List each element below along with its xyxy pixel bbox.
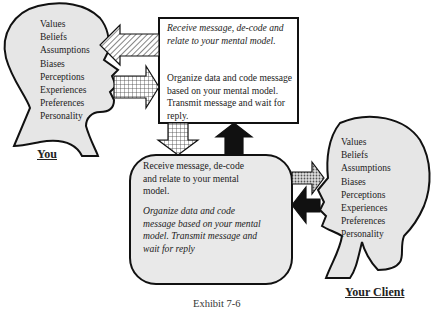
bottom-box-organize-text: Organize data and code message based on … [143,205,267,255]
client-traits-list: Values Beliefs Assumptions Biases Percep… [341,136,391,242]
client-trait: Perceptions [341,189,391,202]
arrow-top-box-to-you [100,25,159,65]
you-label: You [37,148,57,162]
client-trait: Assumptions [341,162,391,175]
arrow-bottom-box-to-top-box [216,123,252,155]
arrow-you-to-top-box [114,66,159,108]
you-trait: Biases [40,58,90,71]
arrow-top-box-to-bottom-box [158,123,198,155]
arrow-client-to-bottom-box [292,187,320,223]
client-trait: Personality [341,228,391,241]
top-box-organize-text: Organize data and code message based on … [167,72,295,122]
you-trait: Preferences [40,97,90,110]
you-trait: Values [40,18,90,31]
client-trait: Preferences [341,215,391,228]
you-trait: Assumptions [40,44,90,57]
you-trait: Experiences [40,84,90,97]
you-traits-list: Values Beliefs Assumptions Biases Percep… [40,18,90,124]
top-box-receive-text: Receive message, de-code and relate to y… [167,22,293,47]
you-trait: Personality [40,110,90,123]
client-trait: Values [341,136,391,149]
bottom-box-receive-text: Receive message, de-code and relate to y… [143,160,253,198]
you-trait: Perceptions [40,71,90,84]
you-trait: Beliefs [40,31,90,44]
client-label: Your Client [345,286,404,300]
client-trait: Beliefs [341,149,391,162]
exhibit-caption: Exhibit 7-6 [193,298,241,310]
client-trait: Experiences [341,202,391,215]
client-trait: Biases [341,176,391,189]
